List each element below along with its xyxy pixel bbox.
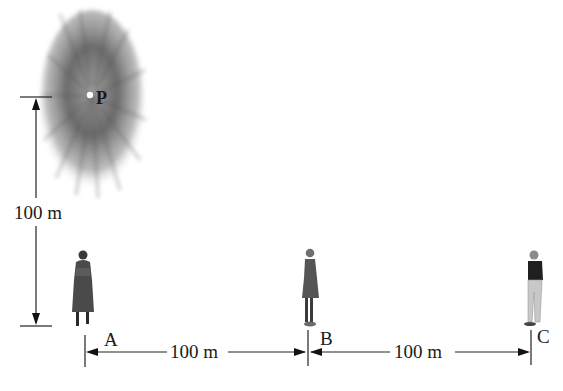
segment-bc-label: 100 m	[394, 341, 442, 362]
vertical-distance-label: 100 m	[14, 202, 62, 223]
diagram-canvas: P 100 m	[0, 0, 563, 391]
horizontal-dimension	[85, 330, 531, 367]
arrow-left-icon	[310, 348, 322, 356]
burst-source-icon	[40, 10, 146, 198]
arrow-up-icon	[32, 98, 40, 110]
point-label-a: A	[104, 329, 118, 350]
observer-c-figure	[524, 251, 543, 327]
arrow-right-icon	[294, 348, 306, 356]
source-label-p: P	[96, 88, 107, 108]
observer-a-figure	[72, 251, 94, 327]
point-label-b: B	[320, 328, 333, 349]
arrow-right-icon	[518, 348, 530, 356]
arrow-left-icon	[86, 348, 98, 356]
segment-ab-label: 100 m	[170, 341, 218, 362]
point-label-c: C	[537, 326, 550, 347]
arrow-down-icon	[32, 313, 40, 325]
observer-b-figure	[302, 249, 319, 327]
